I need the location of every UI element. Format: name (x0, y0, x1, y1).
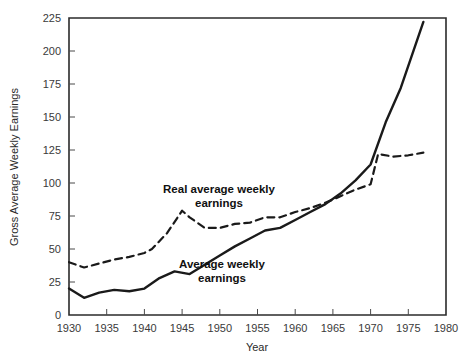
y-tick-label: 225 (43, 12, 61, 24)
x-tick-label: 1960 (283, 322, 307, 334)
earnings-line-chart: 0255075100125150175200225 19301935194019… (0, 0, 474, 357)
y-tick-label: 75 (49, 210, 61, 222)
x-tick-label: 1975 (396, 322, 420, 334)
x-tick-label: 1965 (321, 322, 345, 334)
y-tick-label: 150 (43, 111, 61, 123)
x-tick-label: 1950 (208, 322, 232, 334)
x-tick-label: 1980 (434, 322, 458, 334)
x-tick-label: 1935 (94, 322, 118, 334)
y-tick-label: 175 (43, 78, 61, 90)
x-tick-label: 1955 (245, 322, 269, 334)
y-tick-label: 200 (43, 45, 61, 57)
y-axis-title: Gross Average Weekly Earnings (8, 88, 20, 246)
chart-container: 0255075100125150175200225 19301935194019… (0, 0, 474, 357)
y-tick-label: 25 (49, 276, 61, 288)
chart-background (0, 0, 474, 357)
y-tick-label: 125 (43, 144, 61, 156)
average-earnings-annotation-line2: earnings (198, 272, 246, 284)
real-earnings-annotation-line1: Real average weekly (163, 183, 275, 195)
average-earnings-annotation-line1: Average weekly (179, 258, 265, 270)
x-tick-label: 1970 (358, 322, 382, 334)
y-tick-label: 100 (43, 177, 61, 189)
x-axis-title: Year (246, 341, 269, 353)
y-tick-label: 50 (49, 243, 61, 255)
x-tick-label: 1945 (170, 322, 194, 334)
x-tick-label: 1940 (132, 322, 156, 334)
x-tick-label: 1930 (57, 322, 81, 334)
y-tick-label: 0 (55, 309, 61, 321)
real-earnings-annotation-line2: earnings (195, 197, 243, 209)
